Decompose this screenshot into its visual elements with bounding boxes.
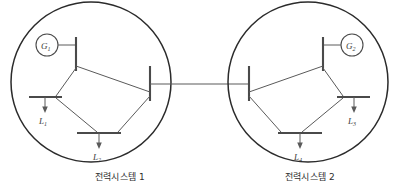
- load-1-label: L1: [38, 116, 47, 127]
- load-1-arrow-head: [42, 107, 48, 114]
- branch-load3-to-load4: [302, 98, 343, 132]
- generator-2-label: G2: [346, 41, 356, 52]
- branch-load1-to-load2: [56, 98, 97, 132]
- power-system-diagram: G1 L1 L2 G2: [0, 0, 399, 193]
- load-3-label: L3: [347, 116, 356, 127]
- diagram-canvas: G1 L1 L2 G2: [0, 0, 399, 193]
- branch-gen2-to-load3: [323, 68, 343, 96]
- load-2-arrow-head: [96, 143, 102, 150]
- load-4-arrow-head: [297, 143, 303, 150]
- system-1-boundary: [11, 2, 171, 162]
- branch-gen1-to-tie1: [76, 66, 150, 92]
- system-2-boundary: [228, 2, 388, 162]
- load-4-label: L4: [293, 152, 302, 163]
- branch-load2-to-tie1: [118, 96, 150, 132]
- branch-gen2-to-tie2: [249, 66, 323, 92]
- system-2-caption: 전력시스템 2: [250, 170, 370, 183]
- branch-load4-to-tie2: [249, 96, 281, 132]
- load-2-label: L2: [92, 152, 101, 163]
- branch-gen1-to-load1: [56, 68, 76, 96]
- system-1-caption: 전력시스템 1: [60, 170, 180, 183]
- load-3-arrow-head: [351, 107, 357, 114]
- generator-1-label: G1: [41, 41, 51, 52]
